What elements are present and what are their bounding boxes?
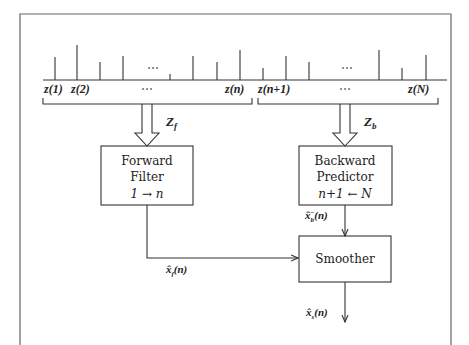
backward-predictor-block: Backward Predictor n+1 ← N <box>299 146 392 205</box>
bracket-forward <box>43 98 252 104</box>
label-zn: z(n) <box>224 82 244 96</box>
label-xs: x̂s(n) <box>305 306 328 321</box>
backward-predictor-line2: Predictor <box>317 170 374 184</box>
sample-stems <box>55 45 426 80</box>
forward-filter-line1: Forward <box>121 154 173 168</box>
bracket-backward <box>258 98 438 104</box>
forward-filter-range: 1 → n <box>130 187 163 201</box>
hollow-arrow-forward <box>135 104 159 146</box>
forward-filter-block: Forward Filter 1 → n <box>101 146 193 205</box>
backward-predictor-line1: Backward <box>315 154 376 168</box>
smoother-label: Smoother <box>315 252 375 266</box>
smoother-block: Smoother <box>299 236 391 282</box>
label-z2: z(2) <box>70 82 90 96</box>
label-xb-minus: x̂b−(n) <box>304 209 328 224</box>
backward-predictor-range: n+1 ← N <box>318 187 372 201</box>
label-xf: x̂f(n) <box>165 263 187 278</box>
hollow-arrow-backward <box>333 104 357 146</box>
label-ellipsis-right: ⋯ <box>339 82 351 96</box>
forward-filter-line2: Filter <box>130 170 164 184</box>
stem-ellipsis-right: ⋯ <box>341 61 353 75</box>
diagram-canvas: ⋯ ⋯ z(1) z(2) ⋯ z(n) z(n+1) ⋯ z(N) Zf Zb… <box>0 0 469 345</box>
label-ellipsis-left: ⋯ <box>141 82 153 96</box>
figure-frame <box>20 14 451 345</box>
arrow-forward-to-smoother <box>147 205 298 258</box>
label-zN: z(N) <box>407 82 429 96</box>
label-Zf: Zf <box>165 114 178 131</box>
label-zn1: z(n+1) <box>257 82 290 96</box>
label-z1: z(1) <box>43 82 63 96</box>
stem-ellipsis-left: ⋯ <box>147 61 159 75</box>
label-Zb: Zb <box>363 114 377 131</box>
